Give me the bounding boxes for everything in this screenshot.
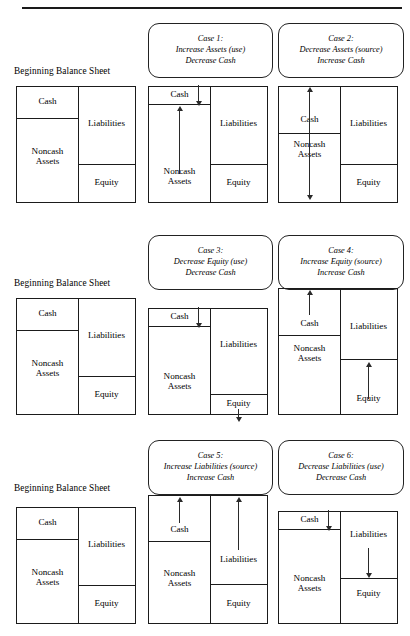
case-5-caption-box: Case 5: Increase Liabilities (source) In… [148, 440, 273, 495]
case-6-title: Case 6: [328, 451, 354, 462]
noncash-assets-cell: Noncash Assets [17, 330, 78, 414]
case-1-line-3: Decrease Cash [185, 56, 235, 67]
case-row-1: Beginning Balance Sheet Case 1: Increase… [0, 18, 410, 213]
top-divider-rule [22, 7, 402, 9]
beginning-balance-sheet-label: Beginning Balance Sheet [14, 483, 110, 493]
case-1-caption-box: Case 1: Increase Assets (use) Decrease C… [148, 23, 273, 78]
case-5-line-2: Increase Liabilities (source) [164, 462, 257, 473]
equity-label: Equity [340, 177, 397, 187]
equity-label: Equity [78, 598, 135, 608]
balance-sheet-baseline-row-2: Cash Noncash Assets Liabilities Equity [16, 298, 136, 415]
case-1-line-2: Increase Assets (use) [176, 45, 246, 56]
noncash-label-line-2: Assets [149, 381, 210, 391]
noncash-label-line-1: Noncash [17, 567, 78, 577]
case-3-line-3: Decrease Cash [185, 268, 235, 279]
cash-cell: Cash [17, 299, 78, 330]
cash-label: Cash [149, 89, 210, 99]
liabilities-cell: Liabilities [78, 508, 135, 585]
noncash-assets-cell: Noncash Assets [17, 539, 78, 623]
equity-cell: Equity [78, 585, 135, 623]
noncash-assets-cell: Noncash Assets [279, 529, 340, 623]
arrowhead-down-icon [196, 323, 202, 328]
equity-cell: Equity [78, 164, 135, 202]
noncash-label-line-2: Assets [17, 368, 78, 378]
cash-label: Cash [17, 308, 78, 318]
balance-sheet-case-3: Cash Noncash Assets Liabilities Equity [148, 308, 268, 415]
case-1-title: Case 1: [198, 34, 224, 45]
balance-sheet-case-5: Cash Noncash Assets Liabilities Equity [148, 495, 268, 624]
cash-increase-arrow [309, 295, 310, 315]
arrowhead-down-icon [236, 417, 242, 422]
liabilities-label: Liabilities [340, 118, 397, 128]
cash-decrease-arrow [328, 510, 329, 526]
equity-label: Equity [340, 588, 397, 598]
case-3-line-2: Decrease Equity (use) [174, 257, 247, 268]
case-4-caption-box: Case 4: Increase Equity (source) Increas… [278, 235, 404, 290]
noncash-label-line-1: Noncash [279, 573, 340, 583]
liabilities-label: Liabilities [340, 321, 397, 331]
balance-sheet-case-6: Cash Noncash Assets Liabilities Equity [278, 511, 398, 624]
arrowhead-down-icon [326, 526, 332, 531]
case-3-caption-box: Case 3: Decrease Equity (use) Decrease C… [148, 235, 273, 290]
case-2-caption-box: Case 2: Decrease Assets (source) Increas… [278, 23, 404, 78]
arrowhead-up-icon [177, 106, 183, 111]
case-3-title: Case 3: [198, 246, 224, 257]
arrowhead-up-icon [366, 362, 372, 367]
noncash-assets-cell: Noncash Assets [149, 541, 210, 623]
liabilities-cell: Liabilities [78, 87, 135, 164]
case-5-line-3: Increase Cash [187, 473, 234, 484]
noncash-label-line-1: Noncash [149, 568, 210, 578]
arrowhead-up-icon [236, 497, 242, 502]
liabilities-cell: Liabilities [210, 309, 267, 394]
equity-increase-arrow [368, 367, 369, 399]
liabilities-label: Liabilities [78, 118, 135, 128]
noncash-label-line-1: Noncash [279, 343, 340, 353]
equity-label: Equity [210, 398, 267, 408]
noncash-assets-cell: Noncash Assets [17, 118, 78, 202]
balance-sheet-baseline-row-1: Cash Noncash Assets Liabilities Equity [16, 86, 136, 203]
cash-label: Cash [279, 318, 340, 328]
case-row-2: Beginning Balance Sheet Case 3: Decrease… [0, 230, 410, 425]
liabilities-label: Liabilities [210, 554, 267, 564]
cash-label: Cash [17, 96, 78, 106]
liabilities-decrease-arrow [368, 548, 369, 573]
arrowhead-down-icon [307, 195, 313, 200]
balance-sheet-case-4: Cash Noncash Assets Liabilities Equity [278, 288, 398, 415]
cash-label: Cash [149, 524, 210, 534]
noncash-decrease-arrow [309, 110, 310, 195]
noncash-label-line-2: Assets [149, 578, 210, 588]
arrowhead-up-icon [177, 497, 183, 502]
noncash-label-line-1: Noncash [17, 146, 78, 156]
balance-sheet-case-2: Cash Noncash Assets Liabilities Equity [278, 86, 398, 203]
liabilities-cell: Liabilities [78, 299, 135, 376]
noncash-label-line-2: Assets [279, 353, 340, 363]
cash-cell: Cash [17, 87, 78, 118]
cash-increase-arrow [179, 502, 180, 523]
liabilities-cell: Liabilities [340, 87, 397, 164]
arrowhead-down-icon [366, 573, 372, 578]
equity-label: Equity [210, 177, 267, 187]
liabilities-label: Liabilities [210, 118, 267, 128]
noncash-label-line-2: Assets [17, 577, 78, 587]
noncash-assets-cell: Noncash Assets [149, 326, 210, 414]
case-6-line-3: Decrease Cash [316, 473, 366, 484]
arrowhead-up-icon [307, 87, 313, 92]
cash-decrease-arrow [198, 307, 199, 323]
equity-cell: Equity [340, 164, 397, 202]
liabilities-label: Liabilities [78, 330, 135, 340]
noncash-label-line-2: Assets [17, 156, 78, 166]
equity-cell: Equity [210, 584, 267, 623]
beginning-balance-sheet-label: Beginning Balance Sheet [14, 66, 110, 76]
equity-cell: Equity [340, 578, 397, 623]
equity-label: Equity [78, 177, 135, 187]
liabilities-cell: Liabilities [340, 289, 397, 359]
noncash-assets-cell: Noncash Assets [279, 335, 340, 414]
case-5-title: Case 5: [198, 451, 224, 462]
balance-sheet-baseline-row-3: Cash Noncash Assets Liabilities Equity [16, 507, 136, 624]
case-row-3: Beginning Balance Sheet Case 5: Increase… [0, 435, 410, 635]
case-2-line-3: Increase Cash [317, 56, 364, 67]
cash-label: Cash [279, 514, 340, 524]
liabilities-label: Liabilities [210, 339, 267, 349]
noncash-label-line-2: Assets [149, 176, 210, 186]
case-6-line-2: Decrease Liabilities (use) [298, 462, 383, 473]
